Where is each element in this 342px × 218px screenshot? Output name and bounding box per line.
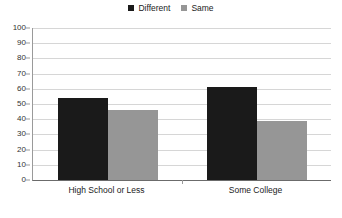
x-axis-separator [182,180,183,184]
bar-different-1 [207,87,257,180]
y-tick-mark [26,73,30,74]
y-tick-mark [26,104,30,105]
y-tick-label: 70 [17,70,26,78]
y-tick-mark [26,164,30,165]
bar-group [207,28,307,180]
y-axis: 1009080706050403020100 [0,28,30,180]
y-tick-mark [26,28,30,29]
x-category-label: Some College [229,186,282,195]
x-axis: High School or LessSome College [32,186,330,202]
y-tick-label: 40 [17,115,26,123]
legend-label-same: Same [191,4,213,13]
legend-swatch-different [128,5,134,11]
y-tick-mark [26,180,30,181]
legend-swatch-same [181,5,187,11]
legend-label-different: Different [138,4,170,13]
y-tick-label: 50 [17,100,26,108]
y-tick-mark [26,119,30,120]
y-tick-label: 60 [17,85,26,93]
y-tick-mark [26,58,30,59]
plot-area [32,28,331,181]
bar-different-0 [58,98,108,180]
y-tick-mark [26,134,30,135]
bar-chart: Different Same 1009080706050403020100 Hi… [0,0,342,218]
y-tick-mark [26,149,30,150]
x-category-label: High School or Less [68,186,144,195]
bar-same-1 [257,121,307,180]
bar-same-0 [108,110,158,180]
legend-entry-different: Different [128,4,170,13]
bars-layer [33,28,331,180]
y-tick-mark [26,43,30,44]
plot-wrapper: 1009080706050403020100 High School or Le… [0,28,342,218]
y-tick-label: 10 [17,161,26,169]
y-tick-mark [26,88,30,89]
y-tick-label: 90 [17,39,26,47]
y-tick-label: 30 [17,130,26,138]
y-tick-label: 80 [17,54,26,62]
bar-group [58,28,158,180]
chart-legend: Different Same [0,4,342,13]
legend-entry-same: Same [181,4,213,13]
y-tick-label: 100 [13,24,26,32]
y-tick-label: 20 [17,146,26,154]
